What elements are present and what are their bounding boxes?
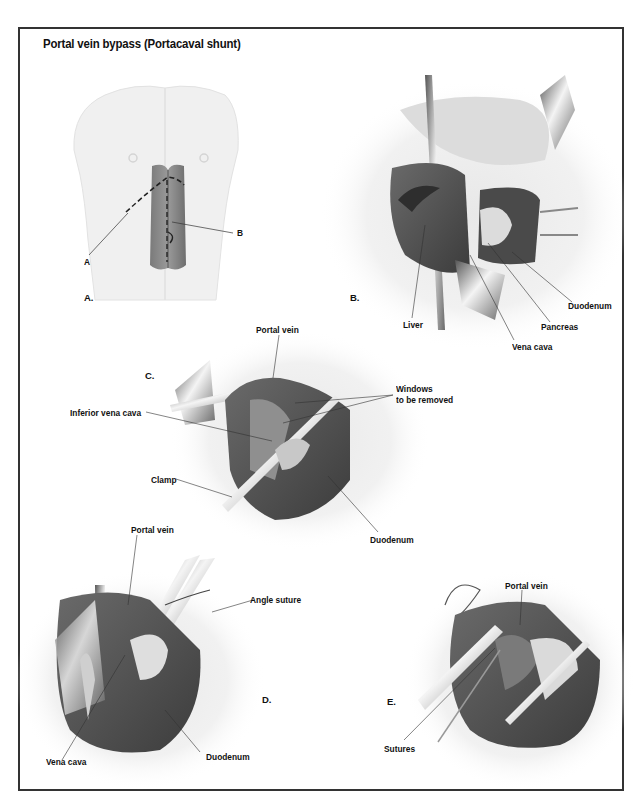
label-windows-line2: to be removed <box>396 394 453 405</box>
label-incision-a: A <box>84 256 90 267</box>
label-angle-suture: Angle suture <box>250 594 301 605</box>
panel-e-completed-shunt-illustration <box>405 570 635 790</box>
panel-c-clamp-illustration <box>170 330 430 550</box>
illustration-canvas <box>0 0 644 810</box>
label-vena-cava-d: Vena cava <box>46 756 86 767</box>
label-sutures: Sutures <box>384 743 415 754</box>
label-portal-vein-d: Portal vein <box>131 524 174 535</box>
panel-a-letter: A. <box>84 292 94 303</box>
label-clamp: Clamp <box>151 474 177 485</box>
label-pancreas: Pancreas <box>541 321 578 332</box>
label-vena-cava-b: Vena cava <box>512 341 552 352</box>
label-portal-vein-e: Portal vein <box>505 580 548 591</box>
label-liver: Liver <box>403 319 423 330</box>
panel-a-torso-illustration <box>74 86 238 300</box>
label-incision-b: B <box>237 227 243 238</box>
panel-b-letter: B. <box>350 292 360 303</box>
label-inferior-vena-cava: Inferior vena cava <box>70 407 141 418</box>
label-duodenum-b: Duodenum <box>568 300 612 311</box>
label-windows-line1: Windows <box>396 383 433 394</box>
panel-d-letter: D. <box>262 694 272 705</box>
panel-e-letter: E. <box>387 696 396 707</box>
label-portal-vein-c: Portal vein <box>256 324 299 335</box>
label-duodenum-c: Duodenum <box>370 534 414 545</box>
label-duodenum-d: Duodenum <box>206 751 250 762</box>
panel-c-letter: C. <box>145 370 155 381</box>
